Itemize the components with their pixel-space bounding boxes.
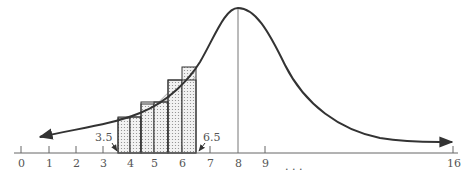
normal-curve: [40, 8, 452, 142]
tick-label-1: 1: [46, 157, 53, 170]
annotation-6-5: 6.5: [203, 131, 221, 144]
tick-label-2: 2: [73, 157, 80, 170]
axis-ticks: [21, 146, 453, 153]
tick-label-9: 9: [262, 157, 269, 170]
axis-ellipsis: . . .: [285, 160, 302, 173]
tick-label-16: 16: [447, 157, 461, 170]
tick-label-4: 4: [127, 157, 134, 170]
tick-label-3: 3: [100, 157, 107, 170]
annotation-3-5: 3.5: [95, 131, 113, 144]
histogram-bars: [118, 67, 196, 153]
tick-label-5: 5: [151, 157, 158, 170]
normal-approximation-figure: 0 1 2 3 4 5 6 7 8 9 . . . 16 3.5 6.5: [0, 0, 468, 179]
tick-label-6: 6: [179, 157, 186, 170]
tick-label-0: 0: [18, 157, 25, 170]
tick-label-8: 8: [235, 157, 242, 170]
tick-label-7: 7: [207, 157, 214, 170]
